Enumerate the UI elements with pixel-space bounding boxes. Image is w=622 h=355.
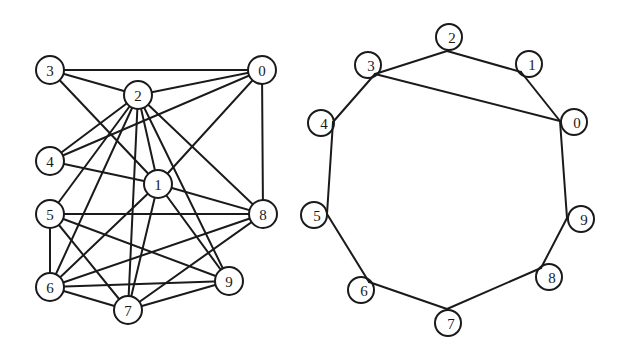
node-label: 0 [573, 115, 581, 131]
edge-0-4 [50, 70, 262, 161]
edge-6-9 [50, 281, 229, 287]
edge-7-8 [447, 268, 541, 309]
node-label: 1 [528, 57, 536, 73]
right-graph-nodes: 0123456789 [301, 24, 594, 336]
node-label: 4 [46, 154, 54, 170]
node-label: 0 [258, 63, 266, 79]
edge-4-1 [50, 161, 158, 184]
node-8: 8 [249, 200, 277, 228]
edge-2-1 [447, 51, 521, 72]
right-graph-edges [327, 51, 567, 309]
node-label: 7 [447, 316, 455, 332]
node-label: 7 [124, 303, 132, 319]
edge-8-9 [541, 218, 567, 268]
edge-2-6 [50, 95, 138, 287]
node-label: 9 [225, 274, 233, 290]
edge-1-9 [158, 184, 229, 281]
node-9: 9 [215, 267, 243, 295]
node-label: 3 [367, 58, 375, 74]
graph-figure: 0123456789 0123456789 [0, 0, 622, 355]
node-label: 5 [313, 208, 321, 224]
node-label: 8 [259, 207, 267, 223]
node-label: 2 [134, 88, 142, 104]
edge-3-2 [375, 51, 447, 74]
node-label: 6 [46, 280, 54, 296]
node-4: 4 [36, 147, 64, 175]
node-4: 4 [308, 110, 334, 136]
left-graph-dense: 0123456789 [36, 56, 277, 324]
edge-0-8 [262, 70, 263, 214]
node-0: 0 [248, 56, 276, 84]
node-5: 5 [36, 200, 64, 228]
node-1: 1 [516, 51, 542, 77]
node-6: 6 [348, 277, 374, 303]
right-graph-cycle: 0123456789 [301, 24, 594, 336]
node-3: 3 [36, 56, 64, 84]
node-0: 0 [561, 109, 587, 135]
edge-6-7 [369, 282, 447, 309]
edge-1-0 [521, 72, 560, 121]
edge-4-5 [327, 122, 333, 214]
node-label: 2 [448, 30, 456, 46]
edge-7-9 [128, 281, 229, 310]
node-label: 1 [154, 177, 162, 193]
node-label: 6 [360, 283, 368, 299]
node-label: 8 [548, 270, 556, 286]
node-2: 2 [124, 81, 152, 109]
node-7: 7 [435, 310, 461, 336]
edge-3-0 [375, 74, 560, 121]
edge-9-0 [560, 121, 567, 218]
node-label: 3 [46, 63, 54, 79]
edge-5-6 [327, 214, 369, 282]
node-6: 6 [36, 273, 64, 301]
node-7: 7 [114, 296, 142, 324]
node-9: 9 [568, 206, 594, 232]
node-2: 2 [436, 24, 462, 50]
node-1: 1 [144, 170, 172, 198]
edge-3-4 [333, 74, 375, 122]
node-5: 5 [301, 202, 327, 228]
node-label: 5 [46, 207, 54, 223]
node-label: 9 [580, 212, 588, 228]
node-label: 4 [320, 116, 328, 132]
